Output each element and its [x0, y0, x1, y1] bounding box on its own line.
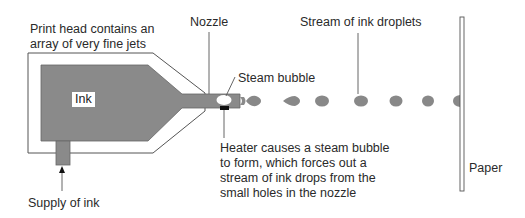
ink-reservoir [41, 65, 240, 141]
bubble-leader [226, 77, 235, 96]
inkjet-diagram: Print head contains an array of very fin… [0, 0, 525, 218]
print-head-label: Print head contains an array of very fin… [30, 22, 154, 52]
paper [460, 17, 464, 191]
supply-tube [56, 141, 70, 165]
supply-arrow-icon [59, 166, 65, 173]
nozzle-label: Nozzle [190, 15, 228, 30]
supply-label: Supply of ink [28, 196, 100, 211]
ink-label: Ink [72, 92, 95, 107]
paper-label: Paper [469, 161, 502, 176]
steam-bubble-label: Steam bubble [238, 71, 315, 86]
heater [220, 106, 229, 110]
droplets-label: Stream of ink droplets [300, 15, 422, 30]
heater-label: Heater causes a steam bubble to form, wh… [220, 141, 390, 201]
steam-bubble [217, 95, 232, 105]
ink-droplets [246, 95, 460, 107]
